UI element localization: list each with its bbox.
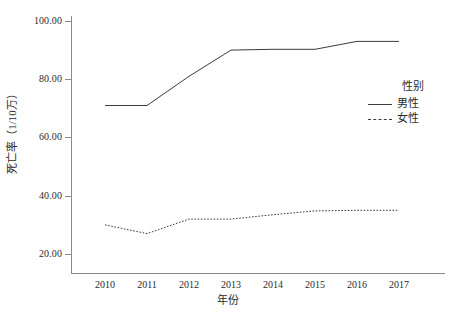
- series-canvas: [0, 0, 456, 319]
- legend-label-female: 女性: [397, 112, 419, 125]
- line-chart: 100.00 80.00 60.00 40.00 20.00 2010 2011…: [0, 0, 456, 319]
- legend-label-male: 男性: [397, 97, 419, 110]
- dashed-line-swatch-icon: [368, 114, 392, 124]
- legend: 性别 男性 女性: [368, 80, 454, 126]
- legend-title: 性别: [368, 80, 454, 93]
- legend-item-male[interactable]: 男性: [368, 96, 454, 111]
- series-line-female: [105, 210, 399, 233]
- solid-line-swatch-icon: [368, 99, 392, 109]
- series-line-male: [105, 41, 399, 105]
- legend-item-female[interactable]: 女性: [368, 111, 454, 126]
